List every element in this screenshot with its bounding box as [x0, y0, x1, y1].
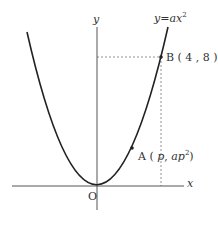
point-a-label: A ( p, ap2)	[138, 150, 194, 162]
x-axis-label: x	[187, 178, 193, 189]
curve-equation-label: y=ax2	[154, 12, 187, 24]
point-a-ap: ap	[171, 150, 185, 163]
y-axis-label: y	[93, 14, 99, 25]
curve-eq-exponent: 2	[182, 11, 186, 19]
curve-eq-ax: ax	[169, 12, 182, 25]
origin-label: O	[88, 191, 97, 202]
point-b-label: B ( 4 , 8 )	[166, 52, 218, 63]
parabola-diagram	[0, 0, 218, 235]
point-b	[159, 55, 163, 59]
point-a	[130, 146, 134, 150]
point-a-suffix: )	[189, 150, 193, 163]
point-a-prefix: A (	[138, 150, 154, 163]
